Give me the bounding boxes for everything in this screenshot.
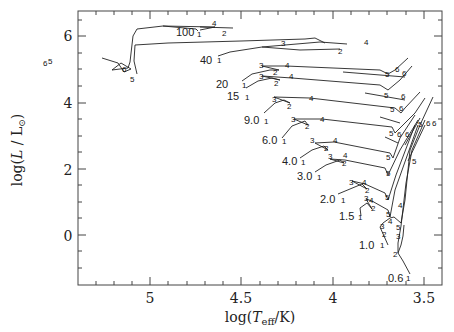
x-tick-label: 3.5 [413,290,435,306]
svg-text:4: 4 [398,201,403,210]
mass-label: 6.0 [262,134,277,146]
svg-text:3: 3 [349,178,354,187]
svg-text:4: 4 [343,151,348,160]
svg-text:1: 1 [217,56,222,65]
svg-text:6: 6 [122,65,127,74]
svg-text:1: 1 [245,93,250,102]
svg-text:4: 4 [362,178,367,187]
svg-text:4: 4 [289,72,294,81]
svg-text:2: 2 [305,122,310,131]
svg-text:4: 4 [364,38,369,47]
svg-text:6: 6 [426,119,431,128]
y-tick-label: 6 [64,28,73,44]
svg-text:6: 6 [405,130,410,139]
svg-text:5: 5 [389,129,394,138]
svg-text:5: 5 [412,157,417,166]
mass-label: 3.0 [297,170,312,182]
y-axis-ticks [78,20,442,268]
svg-text:3: 3 [396,232,401,241]
svg-text:3: 3 [272,95,277,104]
hr-diagram-chart: 5 4.5 4 3.5 0 2 4 6 log(Teff/K) log(L / … [0,0,454,332]
mass-label: 2.0 [320,193,335,205]
track-100 [102,26,325,74]
svg-text:5: 5 [390,105,395,114]
svg-text:4: 4 [285,61,290,70]
svg-text:3: 3 [259,72,264,81]
svg-text:5: 5 [386,210,391,219]
track-20 [242,58,408,81]
svg-text:3: 3 [281,39,286,48]
svg-text:6: 6 [395,65,400,74]
svg-text:6: 6 [432,119,437,128]
svg-text:4: 4 [333,136,338,145]
mass-label: 0.6 [388,272,403,284]
svg-text:5: 5 [48,57,53,66]
svg-text:3: 3 [291,115,296,124]
svg-text:6: 6 [402,69,407,78]
svg-text:5: 5 [396,223,401,232]
svg-text:4: 4 [320,115,325,124]
svg-text:2: 2 [342,159,347,168]
svg-text:2: 2 [273,68,278,77]
svg-text:4: 4 [369,196,374,205]
track-2 [338,125,415,200]
svg-text:2: 2 [393,250,398,259]
svg-text:5: 5 [386,169,391,178]
y-tick-label: 0 [64,228,73,244]
x-tick-label: 4 [329,290,338,306]
svg-text:3: 3 [310,136,315,145]
svg-text:2: 2 [338,47,343,56]
mass-label: 20 [216,78,228,90]
mass-label: 1.5 [339,210,354,222]
svg-text:1: 1 [301,158,306,167]
svg-text:3: 3 [328,152,333,161]
svg-text:5: 5 [385,70,390,79]
svg-text:5: 5 [386,153,391,162]
svg-text:3: 3 [259,61,264,70]
svg-text:5: 5 [418,120,423,129]
svg-text:4: 4 [212,19,217,28]
y-axis-label: log(L / L⊙) [9,114,27,187]
svg-text:1: 1 [341,196,346,205]
svg-text:1: 1 [282,137,287,146]
svg-text:1: 1 [317,173,322,182]
mass-label: 1.0 [359,239,374,251]
x-tick-labels: 5 4.5 4 3.5 [146,290,436,306]
y-tick-label: 4 [64,95,73,111]
x-axis-ticks [96,11,424,285]
svg-text:1: 1 [406,274,411,283]
svg-text:4: 4 [309,94,314,103]
x-tick-label: 4.5 [230,290,252,306]
mass-label: 40 [200,54,212,66]
svg-text:1: 1 [380,241,385,250]
mass-label: 9.0 [244,114,259,126]
svg-text:2: 2 [371,204,376,213]
y-tick-label: 2 [64,162,73,178]
svg-text:1: 1 [358,213,363,222]
mass-label: 15 [227,90,239,102]
svg-text:5: 5 [130,75,135,84]
svg-text:6: 6 [397,130,402,139]
svg-text:1: 1 [242,81,247,90]
svg-text:1: 1 [264,117,269,126]
svg-text:6: 6 [401,92,406,101]
svg-text:5: 5 [385,193,390,202]
y-tick-labels: 0 2 4 6 [64,28,73,244]
svg-text:2: 2 [274,79,279,88]
svg-text:2: 2 [287,102,292,111]
svg-text:6: 6 [399,104,404,113]
svg-text:1: 1 [197,30,202,39]
x-tick-label: 5 [146,290,155,306]
x-axis-label: log(Teff/K) [225,309,295,327]
svg-text:2: 2 [222,29,227,38]
mass-labels: 100 40 20 15 9.0 6.0 4.0 3.0 2.0 1.5 1.0… [176,26,403,284]
svg-text:5: 5 [384,91,389,100]
svg-text:2: 2 [382,230,387,239]
mass-label: 4.0 [282,155,297,167]
mass-label: 100 [176,26,194,38]
track-4 [300,115,420,158]
